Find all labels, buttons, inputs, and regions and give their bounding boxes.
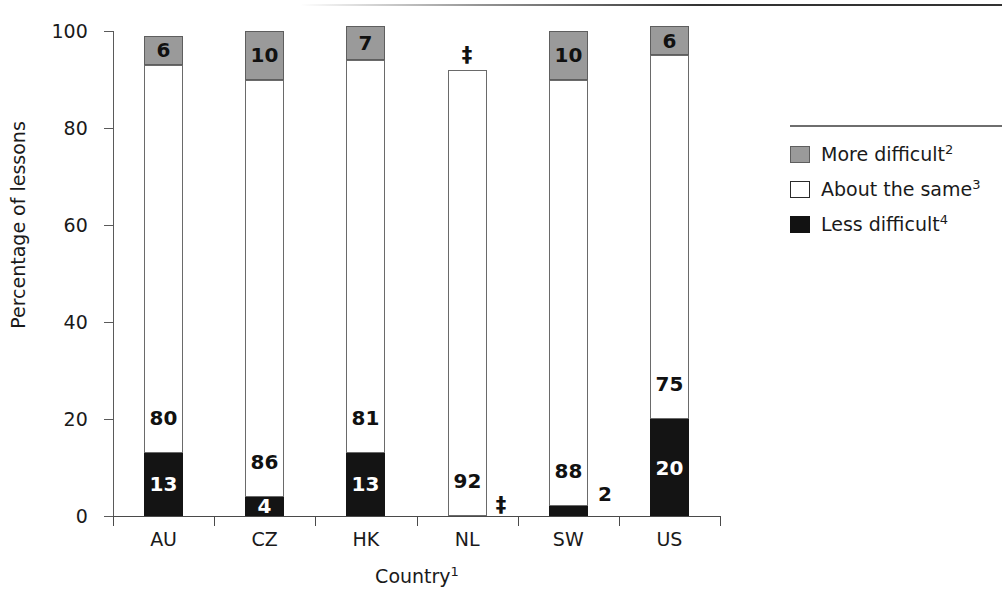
legend-label-superscript: 3 [972, 177, 980, 192]
less-difficult-swatch [790, 216, 810, 233]
legend-label: More difficult2 [821, 143, 953, 165]
bar-value-label-more-difficult: 10 [251, 45, 279, 65]
bar-value-label-more-difficult: 10 [555, 45, 583, 65]
y-axis-tick [104, 516, 113, 517]
bar-segment-more-difficult-sw[interactable]: 10 [549, 31, 588, 80]
x-axis-category-label-nl: NL [455, 528, 480, 550]
bar-segment-less-difficult-cz[interactable]: 4 [245, 497, 284, 516]
legend-top-rule [790, 125, 1002, 127]
bar-group-cz[interactable]: 48610 [245, 31, 284, 516]
bar-value-label-about-the-same: 86 [251, 452, 279, 472]
bar-value-label-about-the-same: 80 [150, 408, 178, 428]
bar-segment-about-the-same-cz[interactable]: 86 [245, 80, 284, 497]
bar-value-label-less-difficult: 4 [258, 496, 272, 516]
x-axis-tick [315, 516, 316, 526]
bar-segment-about-the-same-sw[interactable]: 88 [549, 80, 588, 507]
y-axis-tick [104, 128, 113, 129]
x-axis-category-label-us: US [656, 528, 682, 550]
bar-segment-about-the-same-au[interactable]: 80 [144, 65, 183, 453]
bar-value-label-about-the-same: 75 [656, 374, 684, 394]
suppressed-marker-more-difficult-nl: ‡ [462, 45, 473, 66]
x-axis-category-label-cz: CZ [252, 528, 278, 550]
bar-group-hk[interactable]: 13817 [346, 31, 385, 516]
bar-group-us[interactable]: 20756 [650, 31, 689, 516]
y-axis-tick-label: 0 [0, 505, 88, 527]
more-difficult-swatch [790, 146, 810, 163]
y-axis-tick-label: 60 [0, 214, 88, 236]
x-axis-category-label-sw: SW [553, 528, 584, 550]
bar-value-label-less-difficult: 20 [656, 458, 684, 478]
bar-segment-less-difficult-hk[interactable]: 13 [346, 453, 385, 516]
plot-area [113, 31, 720, 516]
x-axis-category-label-hk: HK [353, 528, 380, 550]
bar-value-label-about-the-same: 88 [555, 461, 583, 481]
bar-value-label-about-the-same: 81 [352, 408, 380, 428]
legend-label: About the same3 [821, 178, 980, 200]
legend-label-text: Less difficult [821, 213, 940, 235]
bar-segment-less-difficult-au[interactable]: 13 [144, 453, 183, 516]
x-axis-title-superscript: 1 [451, 564, 459, 579]
y-axis-tick-label: 20 [0, 408, 88, 430]
y-axis-tick [104, 31, 113, 32]
bar-segment-more-difficult-hk[interactable]: 7 [346, 26, 385, 60]
suppressed-marker-less-difficult-nl: ‡ [496, 495, 507, 516]
bar-group-au[interactable]: 13806 [144, 31, 183, 516]
x-axis-tick [214, 516, 215, 526]
y-axis-tick-label: 100 [0, 20, 88, 42]
x-axis-tick [417, 516, 418, 526]
about-the-same-swatch [790, 181, 810, 198]
bar-value-label-less-difficult-outside-sw: 2 [598, 484, 612, 504]
x-axis-title: Country1 [113, 565, 721, 587]
bar-segment-more-difficult-us[interactable]: 6 [650, 26, 689, 55]
bar-segment-more-difficult-cz[interactable]: 10 [245, 31, 284, 80]
x-axis-tick [619, 516, 620, 526]
stacked-bar-chart: Percentage of lessons Country1 More diff… [0, 0, 1002, 605]
y-axis-tick-label: 80 [0, 117, 88, 139]
bar-group-nl[interactable]: 92 [448, 31, 487, 516]
bar-segment-about-the-same-us[interactable]: 75 [650, 55, 689, 419]
legend-item-about-the-same[interactable]: About the same3 [790, 178, 980, 200]
legend-label-superscript: 2 [945, 142, 953, 157]
x-axis-tick [720, 516, 721, 526]
bar-segment-about-the-same-hk[interactable]: 81 [346, 60, 385, 453]
legend-label: Less difficult4 [821, 213, 948, 235]
bar-group-sw[interactable]: 8810 [549, 31, 588, 516]
legend-item-more-difficult[interactable]: More difficult2 [790, 143, 953, 165]
x-axis-title-text: Country [375, 565, 450, 587]
x-axis-tick [518, 516, 519, 526]
bar-segment-more-difficult-au[interactable]: 6 [144, 36, 183, 65]
bar-value-label-more-difficult: 6 [157, 40, 171, 60]
y-axis-tick [104, 225, 113, 226]
bar-segment-about-the-same-nl[interactable]: 92 [448, 70, 487, 516]
legend-label-text: More difficult [821, 143, 945, 165]
bar-value-label-more-difficult: 6 [663, 31, 677, 51]
y-axis-tick [104, 322, 113, 323]
bar-value-label-about-the-same: 92 [454, 471, 482, 491]
y-axis-tick-label: 40 [0, 311, 88, 333]
legend-label-text: About the same [821, 178, 972, 200]
bar-value-label-less-difficult: 13 [150, 474, 178, 494]
bar-segment-less-difficult-sw[interactable] [549, 506, 588, 516]
bar-segment-less-difficult-us[interactable]: 20 [650, 419, 689, 516]
x-axis-category-label-au: AU [150, 528, 177, 550]
x-axis-tick [113, 516, 114, 526]
bar-value-label-more-difficult: 7 [359, 33, 373, 53]
y-axis-tick [104, 419, 113, 420]
bar-value-label-less-difficult: 13 [352, 474, 380, 494]
legend-item-less-difficult[interactable]: Less difficult4 [790, 213, 948, 235]
legend-label-superscript: 4 [940, 212, 948, 227]
